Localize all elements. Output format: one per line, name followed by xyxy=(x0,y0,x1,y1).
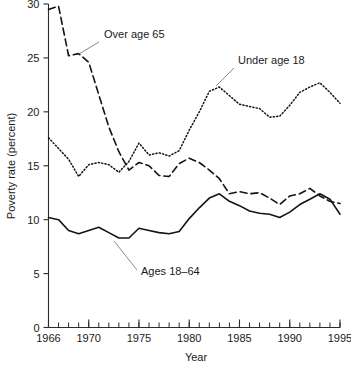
y-axis-group: 051015202530 Poverty rate (percent) xyxy=(5,0,49,334)
x-axis-group: 1966197019751980198519901995 Year xyxy=(36,320,351,364)
series-line-over-age-65 xyxy=(49,6,341,204)
x-axis-title: Year xyxy=(185,351,208,363)
y-axis-tick-labels: 051015202530 xyxy=(27,0,39,334)
y-tick-label: 5 xyxy=(33,268,39,280)
annotation-label: Under age 18 xyxy=(238,54,305,66)
series-line-ages-18-64 xyxy=(49,194,341,238)
x-axis-tick-labels: 1966197019751980198519901995 xyxy=(36,332,351,344)
y-axis-title: Poverty rate (percent) xyxy=(5,113,17,219)
annotation-leader-line xyxy=(79,42,99,54)
y-axis-ticks xyxy=(44,4,49,328)
annotation-label: Ages 18–64 xyxy=(141,265,200,277)
series-annotations: Over age 65Under age 18Ages 18–64 xyxy=(79,28,305,277)
y-tick-label: 25 xyxy=(27,52,39,64)
x-axis-minor-ticks xyxy=(49,323,341,328)
y-tick-label: 20 xyxy=(27,106,39,118)
chart-canvas: 051015202530 Poverty rate (percent) 1966… xyxy=(0,0,351,367)
y-tick-label: 10 xyxy=(27,214,39,226)
poverty-rate-line-chart: 051015202530 Poverty rate (percent) 1966… xyxy=(0,0,351,367)
data-series-group xyxy=(49,6,341,238)
series-line-under-age-18 xyxy=(49,83,341,177)
x-axis-major-ticks xyxy=(49,320,341,328)
x-tick-label: 1975 xyxy=(127,332,151,344)
y-tick-label: 15 xyxy=(27,160,39,172)
y-tick-label: 30 xyxy=(27,0,39,10)
x-tick-label: 1990 xyxy=(277,332,301,344)
annotation-label: Over age 65 xyxy=(104,28,165,40)
x-tick-label: 1995 xyxy=(328,332,351,344)
x-tick-label: 1970 xyxy=(76,332,100,344)
x-tick-label: 1966 xyxy=(36,332,60,344)
x-tick-label: 1980 xyxy=(177,332,201,344)
annotation-leader-line xyxy=(114,241,137,270)
x-tick-label: 1985 xyxy=(227,332,251,344)
annotation-leader-line xyxy=(216,68,234,86)
